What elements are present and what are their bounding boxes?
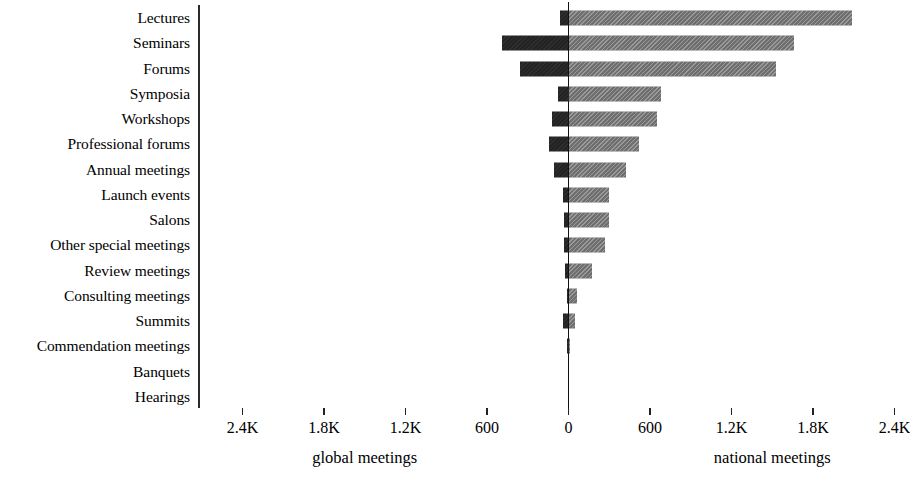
bar-national-meetings xyxy=(569,162,627,177)
bar-global-meetings xyxy=(552,112,568,127)
bar-national-meetings xyxy=(569,11,853,26)
bar-row xyxy=(0,335,910,357)
bar-global-meetings xyxy=(549,137,568,152)
bar-national-meetings xyxy=(569,187,610,202)
axis-title-global-meetings: global meetings xyxy=(312,450,417,467)
bar-national-meetings xyxy=(569,61,777,76)
bar-row xyxy=(0,361,910,383)
bar-national-meetings xyxy=(569,36,794,51)
x-axis-tick-label: 1.2K xyxy=(390,420,422,436)
bar-national-meetings xyxy=(569,137,640,152)
bar-global-meetings xyxy=(560,11,568,26)
bar-national-meetings xyxy=(569,112,657,127)
bar-global-meetings xyxy=(554,162,568,177)
bar-national-meetings xyxy=(569,263,592,278)
bar-row xyxy=(0,133,910,155)
bar-national-meetings xyxy=(569,238,606,253)
x-axis-tick-label: 2.4K xyxy=(227,420,259,436)
bar-row xyxy=(0,209,910,231)
bar-global-meetings xyxy=(520,61,569,76)
x-axis-tick-label: 600 xyxy=(475,420,499,436)
x-axis-tick xyxy=(649,408,651,415)
x-axis-tick-label: 1.8K xyxy=(797,420,829,436)
bar-row xyxy=(0,7,910,29)
bar-row xyxy=(0,83,910,105)
plot-area xyxy=(0,0,910,410)
axis-title-national-meetings: national meetings xyxy=(714,450,831,467)
x-axis-tick-label: 2.4K xyxy=(879,420,910,436)
x-axis-tick-label: 0 xyxy=(565,420,573,436)
bar-row xyxy=(0,386,910,408)
x-axis-tick xyxy=(323,408,325,415)
diverging-bar-chart: LecturesSeminarsForumsSymposiaWorkshopsP… xyxy=(0,0,910,479)
bar-row xyxy=(0,310,910,332)
bar-row xyxy=(0,159,910,181)
bar-national-meetings xyxy=(569,314,575,329)
bar-row xyxy=(0,234,910,256)
bar-row xyxy=(0,285,910,307)
bar-national-meetings xyxy=(569,288,577,303)
x-axis-tick xyxy=(894,408,896,415)
bar-row xyxy=(0,184,910,206)
bar-national-meetings xyxy=(569,213,609,228)
bar-global-meetings xyxy=(502,36,569,51)
x-axis-tick xyxy=(568,408,570,415)
bar-row xyxy=(0,32,910,54)
bar-global-meetings xyxy=(558,86,568,101)
bar-row xyxy=(0,58,910,80)
x-axis-tick xyxy=(242,408,244,415)
x-axis-tick-label: 1.8K xyxy=(308,420,340,436)
x-axis-tick xyxy=(486,408,488,415)
x-axis-tick xyxy=(405,408,407,415)
bar-national-meetings xyxy=(569,86,661,101)
x-axis-tick-label: 600 xyxy=(638,420,662,436)
bar-row xyxy=(0,108,910,130)
x-axis-tick xyxy=(812,408,814,415)
bar-row xyxy=(0,260,910,282)
bar-national-meetings xyxy=(569,339,570,354)
x-axis-tick xyxy=(731,408,733,415)
x-axis-tick-label: 1.2K xyxy=(716,420,748,436)
value-axis: 2.4K1.8K1.2K60006001.2K1.8K2.4Kglobal me… xyxy=(0,408,910,479)
